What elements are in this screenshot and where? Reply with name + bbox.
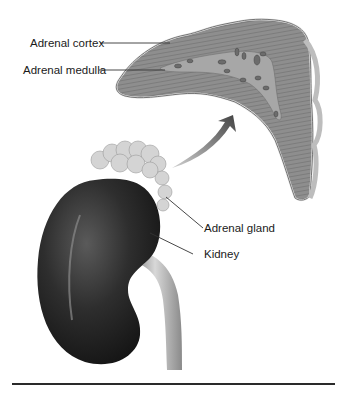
- kidney-shape: [37, 179, 160, 364]
- label-adrenal-cortex: Adrenal cortex: [30, 38, 104, 50]
- magnify-arrow: [172, 115, 236, 168]
- label-adrenal-medulla: Adrenal medulla: [23, 65, 106, 77]
- label-kidney: Kidney: [204, 249, 239, 261]
- bottom-divider: [12, 383, 335, 385]
- label-adrenal-gland: Adrenal gland: [204, 223, 275, 235]
- adrenal-diagram: Adrenal cortex Adrenal medulla Adrenal g…: [0, 0, 345, 396]
- illustration: [0, 0, 345, 396]
